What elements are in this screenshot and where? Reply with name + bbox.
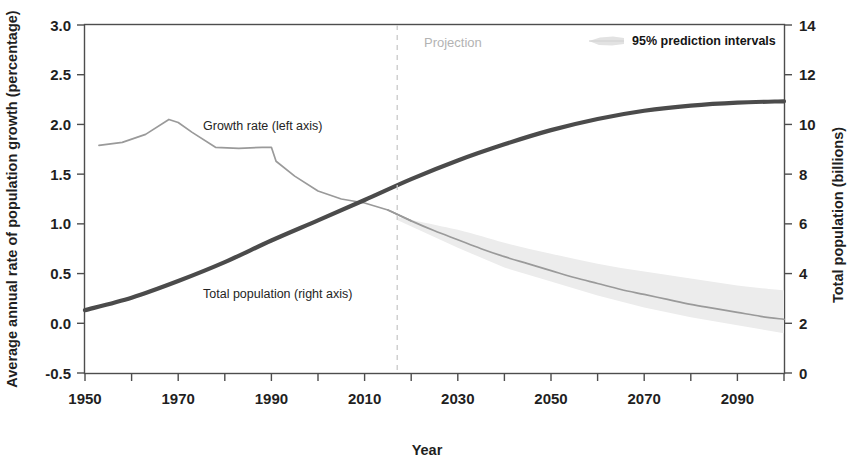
svg-text:2070: 2070 [628, 390, 661, 407]
svg-text:2090: 2090 [721, 390, 754, 407]
svg-text:1.5: 1.5 [50, 166, 71, 183]
svg-text:2050: 2050 [534, 390, 567, 407]
population-growth-chart: 19501970199020102030205020702090 3.02.52… [0, 0, 854, 465]
svg-text:8: 8 [799, 166, 807, 183]
svg-text:2.5: 2.5 [50, 66, 71, 83]
svg-text:0: 0 [799, 365, 807, 382]
svg-text:-0.5: -0.5 [45, 365, 71, 382]
svg-text:0.0: 0.0 [50, 315, 71, 332]
svg-text:14: 14 [799, 17, 816, 34]
y-axis-left-title: Average annual rate of population growth… [4, 10, 20, 387]
svg-text:1970: 1970 [162, 390, 195, 407]
svg-text:3.0: 3.0 [50, 17, 71, 34]
growth-rate-series-label: Growth rate (left axis) [203, 119, 322, 133]
legend-label: 95% prediction intervals [632, 34, 776, 48]
projection-label: Projection [424, 35, 482, 50]
svg-text:1990: 1990 [255, 390, 288, 407]
svg-text:4: 4 [799, 265, 808, 282]
svg-text:2030: 2030 [441, 390, 474, 407]
svg-text:12: 12 [799, 66, 816, 83]
svg-text:2.0: 2.0 [50, 116, 71, 133]
svg-text:6: 6 [799, 215, 807, 232]
svg-text:0.5: 0.5 [50, 265, 71, 282]
total-population-series-label: Total population (right axis) [203, 287, 352, 301]
svg-text:2010: 2010 [348, 390, 381, 407]
svg-text:2: 2 [799, 315, 807, 332]
y-axis-right-title: Total population (billions) [830, 127, 846, 303]
svg-text:10: 10 [799, 116, 816, 133]
chart-canvas: 19501970199020102030205020702090 3.02.52… [0, 0, 854, 465]
x-axis-title: Year [412, 442, 443, 458]
svg-text:1.0: 1.0 [50, 215, 71, 232]
svg-text:1950: 1950 [68, 390, 101, 407]
